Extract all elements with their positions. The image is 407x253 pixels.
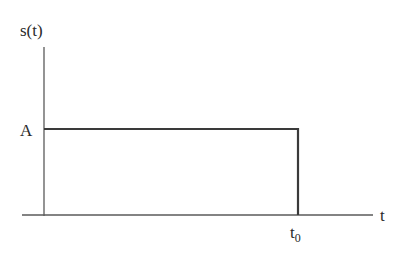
diagram-svg: s(t) A t t0 bbox=[0, 0, 407, 253]
y-axis-label: s(t) bbox=[20, 21, 43, 40]
pulse-diagram: s(t) A t t0 bbox=[0, 0, 407, 253]
x-axis-label: t bbox=[380, 206, 385, 225]
amplitude-label: A bbox=[20, 121, 33, 140]
end-time-subscript: 0 bbox=[295, 231, 301, 245]
end-time-label: t0 bbox=[290, 223, 301, 245]
